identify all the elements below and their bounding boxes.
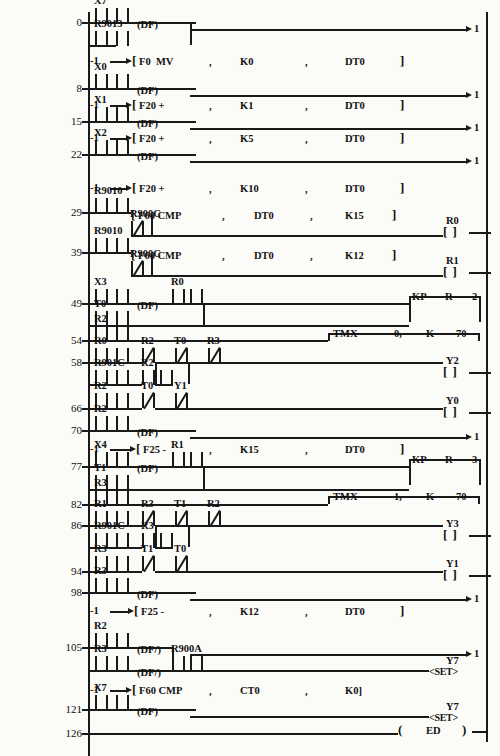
contact-no[interactable] — [116, 490, 129, 505]
contact-no[interactable] — [95, 74, 108, 89]
contact-bar-right — [106, 452, 108, 467]
contact-nc[interactable] — [131, 221, 144, 236]
contact-no[interactable] — [116, 311, 129, 326]
contact-no[interactable] — [172, 452, 185, 467]
timer-preset: 70 — [456, 329, 467, 339]
cmp-opcode: F60 CMP — [138, 250, 181, 261]
output-coil[interactable]: [ ] — [443, 225, 458, 238]
function-block-bracket: [ — [132, 181, 136, 194]
contact-no[interactable] — [116, 633, 129, 648]
coil-tail-wire — [469, 575, 491, 577]
contact-bar-left — [116, 74, 118, 89]
contact-bar-left — [116, 695, 118, 710]
contact-label: R2 — [207, 499, 220, 509]
rung-number: 86 — [40, 520, 82, 531]
keep-opcode: KP — [412, 455, 427, 465]
df-instruction: (DF/) — [137, 668, 161, 678]
contact-no[interactable] — [116, 238, 129, 253]
contact-bar-left — [116, 452, 118, 467]
contact-bar-left — [95, 578, 97, 593]
branch-connector — [478, 496, 480, 504]
contact-no[interactable] — [116, 452, 129, 467]
contact-no[interactable] — [172, 656, 185, 671]
contact-label: R0 — [171, 277, 184, 287]
contact-no[interactable] — [190, 289, 203, 304]
contact-label: T0 — [174, 336, 186, 346]
contact-no[interactable] — [116, 370, 129, 385]
contact-nc[interactable] — [175, 556, 188, 571]
contact-no[interactable] — [95, 198, 108, 213]
contact-no[interactable] — [116, 416, 129, 431]
contact-no[interactable] — [116, 198, 129, 213]
set-output[interactable]: <SET> — [429, 667, 458, 677]
contact-no[interactable] — [116, 393, 129, 408]
contact-slash — [209, 347, 222, 364]
contact-nc[interactable] — [142, 393, 155, 408]
branch-connector — [203, 466, 205, 489]
contact-no[interactable] — [116, 533, 129, 548]
function-block-opcode: F25 - — [141, 606, 164, 617]
rung-wire — [221, 362, 443, 364]
contact-no[interactable] — [95, 578, 108, 593]
df-instruction: (DF) — [137, 301, 158, 311]
contact-nc[interactable] — [208, 511, 221, 526]
contact-bar-right — [127, 656, 129, 671]
function-block-comma: , — [209, 134, 212, 145]
contact-no[interactable] — [95, 31, 108, 46]
contact-nc[interactable] — [175, 393, 188, 408]
contact-no[interactable] — [160, 370, 173, 385]
contact-no[interactable] — [95, 695, 108, 710]
contact-nc[interactable] — [142, 556, 155, 571]
rung-number: 105 — [40, 642, 82, 653]
output-coil[interactable]: [ ] — [443, 365, 458, 378]
contact-nc[interactable] — [131, 261, 144, 276]
rung-wire — [203, 670, 429, 672]
contact-no[interactable] — [116, 74, 129, 89]
output-coil[interactable]: [ ] — [443, 568, 458, 581]
contact-no[interactable] — [95, 656, 108, 671]
contact-no[interactable] — [116, 695, 129, 710]
contact-no[interactable] — [190, 656, 203, 671]
contact-no[interactable] — [190, 452, 203, 467]
rung-wire — [203, 489, 409, 491]
contact-no[interactable] — [95, 238, 108, 253]
contact-bar-left — [116, 370, 118, 385]
contact-no[interactable] — [116, 556, 129, 571]
contact-nc[interactable] — [175, 348, 188, 363]
contact-no[interactable] — [116, 475, 129, 490]
contact-bar-left — [116, 533, 118, 548]
contact-no[interactable] — [116, 289, 129, 304]
contact-no[interactable] — [116, 578, 129, 593]
contact-no[interactable] — [116, 656, 129, 671]
contact-no[interactable] — [116, 326, 129, 341]
df-instruction: (DF) — [137, 152, 158, 162]
output-coil[interactable]: [ ] — [443, 528, 458, 541]
rung-wire — [221, 525, 443, 527]
contact-nc[interactable] — [175, 511, 188, 526]
contact-bar-right — [106, 107, 108, 122]
contact-no[interactable] — [160, 533, 173, 548]
set-output-label: Y7 — [446, 702, 459, 712]
contact-no[interactable] — [116, 140, 129, 155]
contact-no[interactable] — [95, 416, 108, 431]
function-block-opcode: F60 CMP — [139, 685, 182, 696]
contact-no[interactable] — [116, 107, 129, 122]
rung-number: 98 — [40, 587, 82, 598]
set-output[interactable]: <SET> — [429, 713, 458, 723]
contact-no[interactable] — [172, 289, 185, 304]
function-block-close: ] — [400, 54, 404, 67]
contact-bar-left — [172, 452, 174, 467]
output-coil[interactable]: [ ] — [443, 405, 458, 418]
contact-label: T0 — [141, 381, 153, 391]
cmp-bracket: [ — [131, 248, 135, 261]
contact-bar-left — [95, 238, 97, 253]
timer-opcode: TMX — [333, 492, 358, 502]
contact-slash — [143, 555, 156, 572]
contact-nc[interactable] — [208, 348, 221, 363]
contact-no[interactable] — [116, 31, 129, 46]
rung-wire — [155, 408, 175, 410]
branch-connector — [188, 362, 190, 384]
output-coil[interactable]: [ ] — [443, 265, 458, 278]
cmp-operand-2: K12 — [345, 250, 364, 261]
set-output-label: Y7 — [446, 656, 459, 666]
